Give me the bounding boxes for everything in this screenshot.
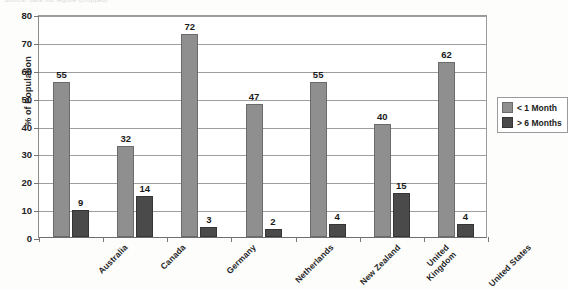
bar-value-label: 32: [120, 133, 131, 144]
bar-group: 554: [310, 14, 346, 237]
bar-united-states-series-0: 62: [438, 62, 455, 237]
bar-group: 4015: [374, 14, 410, 237]
legend-item-0: < 1 Month: [502, 102, 562, 113]
bar-group: 3214: [117, 14, 153, 237]
bar-value-label: 15: [396, 180, 407, 191]
y-tick-label: 80: [6, 10, 32, 21]
category-label-netherlands: Netherlands: [293, 243, 335, 285]
y-tick-label: 40: [6, 121, 32, 132]
x-tick-mark: [424, 237, 425, 242]
y-tick-label: 10: [6, 205, 32, 216]
bar-value-label: 14: [139, 183, 150, 194]
category-label-united-states: United States: [487, 243, 533, 289]
bar-value-label: 2: [270, 216, 275, 227]
bar-value-label: 4: [463, 211, 468, 222]
category-label-germany: Germany: [225, 243, 258, 276]
y-tick-label: 60: [6, 65, 32, 76]
bar-germany-series-0: 72: [181, 34, 198, 237]
bar-new-zealand-series-0: 55: [310, 82, 327, 237]
bar-group: 559: [53, 14, 89, 237]
bar-united-kingdom-series-1: 15: [393, 193, 410, 237]
bar-value-label: 55: [56, 69, 67, 80]
legend: < 1 Month > 6 Months: [497, 97, 568, 133]
bar-value-label: 72: [185, 21, 196, 32]
bar-australia-series-1: 9: [72, 210, 89, 237]
bar-united-kingdom-series-0: 40: [374, 124, 391, 238]
legend-swatch-icon-series-0: [502, 102, 513, 113]
x-tick-mark: [39, 237, 40, 242]
bar-australia-series-0: 55: [53, 82, 70, 237]
x-tick-mark: [103, 237, 104, 242]
bar-germany-series-1: 3: [200, 227, 217, 237]
category-label-united-kingdom: United Kingdom: [418, 243, 458, 283]
bar-united-states-series-1: 4: [457, 224, 474, 237]
bar-netherlands-series-0: 47: [246, 104, 263, 237]
category-label-australia: Australia: [97, 243, 130, 276]
y-tick-label: 30: [6, 149, 32, 160]
x-tick-mark: [231, 237, 232, 242]
legend-swatch-icon-series-1: [502, 117, 513, 128]
y-tick-label: 70: [6, 37, 32, 48]
bars-layer: 55932147234725544015624: [39, 16, 486, 237]
bar-canada-series-0: 32: [117, 146, 134, 237]
y-tick-label: 20: [6, 177, 32, 188]
plot-area: 55932147234725544015624: [38, 15, 487, 238]
y-tick-label: 50: [6, 93, 32, 104]
x-tick-mark: [488, 237, 489, 242]
x-tick-mark: [167, 237, 168, 242]
source-note: Source: data not legible (cropped): [4, 0, 194, 6]
category-label-canada: Canada: [159, 243, 188, 272]
bar-group: 723: [181, 14, 217, 237]
bar-value-label: 47: [249, 91, 260, 102]
legend-label-series-1: > 6 Months: [517, 118, 562, 128]
y-tick-label: 0: [6, 233, 32, 244]
bar-netherlands-series-1: 2: [265, 229, 282, 237]
bar-value-label: 55: [313, 69, 324, 80]
y-axis-title: % of Population: [23, 11, 33, 171]
bar-new-zealand-series-1: 4: [329, 224, 346, 237]
legend-item-1: > 6 Months: [502, 117, 562, 128]
bar-value-label: 9: [78, 197, 83, 208]
x-tick-mark: [296, 237, 297, 242]
x-tick-mark: [360, 237, 361, 242]
category-label-new-zealand: New Zealand: [358, 243, 402, 287]
bar-canada-series-1: 14: [136, 196, 153, 237]
bar-group: 624: [438, 14, 474, 237]
bar-value-label: 3: [206, 214, 211, 225]
legend-label-series-0: < 1 Month: [517, 103, 557, 113]
bar-value-label: 4: [334, 211, 339, 222]
bar-value-label: 62: [441, 49, 452, 60]
bar-group: 472: [246, 14, 282, 237]
bar-value-label: 40: [377, 111, 388, 122]
